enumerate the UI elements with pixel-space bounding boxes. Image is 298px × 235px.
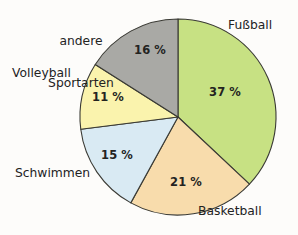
slice-label-schwimmen: Schwimmen [15, 166, 90, 180]
slice-label-andere-sportarten: andere Sportarten [38, 6, 124, 118]
pie-chart-figure: 37 % 21 % 15 % 11 % 16 % Fußball Basketb… [0, 0, 298, 235]
slice-value-andere-sportarten: 16 % [134, 43, 166, 57]
slice-label-basketball: Basketball [198, 204, 262, 218]
slice-label-andere-line1: andere [38, 34, 124, 48]
slice-value-fussball: 37 % [209, 85, 241, 99]
slice-value-schwimmen: 15 % [101, 148, 133, 162]
slice-label-fussball: Fußball [228, 18, 272, 32]
slice-value-basketball: 21 % [170, 175, 202, 189]
slice-label-andere-line2: Sportarten [38, 76, 124, 90]
